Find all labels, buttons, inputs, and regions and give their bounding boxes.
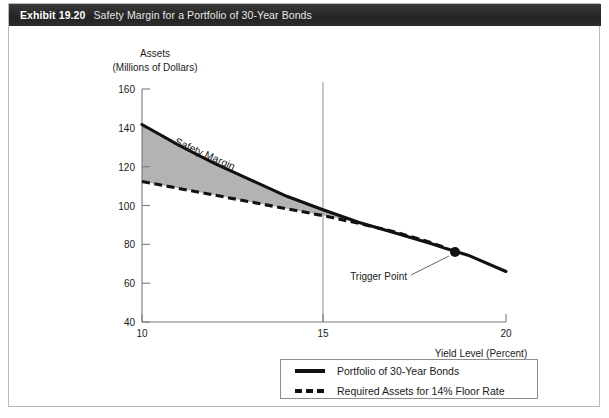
x-axis-title: Yield Level (Percent) <box>435 348 527 359</box>
exhibit-panel: Exhibit 19.20 Safety Margin for a Portfo… <box>8 3 600 407</box>
y-tick-label-120: 120 <box>118 162 135 173</box>
y-axis-title-line2: (Millions of Dollars) <box>112 62 197 73</box>
chart-area: 160 140 120 100 80 60 40 10 15 20 Assets… <box>9 26 601 407</box>
exhibit-title-bar: Exhibit 19.20 Safety Margin for a Portfo… <box>9 4 601 26</box>
trigger-point-leader <box>411 256 449 275</box>
x-tick-label-20: 20 <box>500 328 512 339</box>
legend-label-portfolio: Portfolio of 30-Year Bonds <box>337 365 459 377</box>
chart-legend: Portfolio of 30-Year Bonds Required Asse… <box>280 359 538 399</box>
y-tick-label-160: 160 <box>118 84 135 95</box>
y-tick-label-100: 100 <box>118 201 135 212</box>
y-tick-label-80: 80 <box>124 239 136 250</box>
x-tick-label-15: 15 <box>317 328 329 339</box>
trigger-point-marker <box>450 247 460 257</box>
series-required-assets-line <box>142 182 446 249</box>
y-tick-label-40: 40 <box>124 317 136 328</box>
y-tick-label-60: 60 <box>124 278 136 289</box>
legend-key-dashed-icon <box>295 384 329 398</box>
y-tick-label-140: 140 <box>118 123 135 134</box>
y-axis-title-line1: Assets <box>140 48 170 59</box>
trigger-point-label: Trigger Point <box>350 271 407 282</box>
page-footnote <box>150 409 609 416</box>
chart-svg: 160 140 120 100 80 60 40 10 15 20 Assets… <box>9 26 601 407</box>
legend-item-portfolio: Portfolio of 30-Year Bonds <box>281 362 537 380</box>
legend-key-solid-icon <box>295 364 329 378</box>
legend-item-required-assets: Required Assets for 14% Floor Rate <box>281 382 537 400</box>
exhibit-title: Safety Margin for a Portfolio of 30-Year… <box>94 9 312 21</box>
x-tick-label-10: 10 <box>136 328 148 339</box>
legend-label-required-assets: Required Assets for 14% Floor Rate <box>337 385 505 397</box>
exhibit-number: Exhibit 19.20 <box>20 9 86 21</box>
